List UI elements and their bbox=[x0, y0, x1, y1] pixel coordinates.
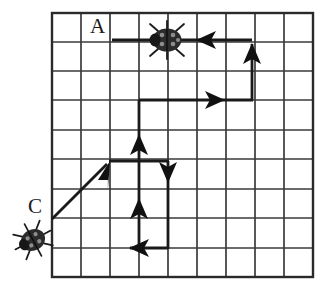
segment-diagonal-up-right bbox=[52, 164, 107, 219]
ladybug-on-grid bbox=[144, 21, 190, 59]
cell-label-c: C bbox=[28, 196, 42, 217]
grid bbox=[52, 13, 313, 277]
grid-border bbox=[52, 13, 313, 277]
arrowheads bbox=[94, 31, 261, 257]
figure-canvas: A C bbox=[0, 0, 327, 290]
cell-label-a: A bbox=[90, 16, 105, 37]
grid-horizontal-lines bbox=[52, 42, 313, 248]
grid-path-diagram bbox=[0, 0, 327, 290]
arrowhead-diagonal bbox=[94, 161, 123, 190]
